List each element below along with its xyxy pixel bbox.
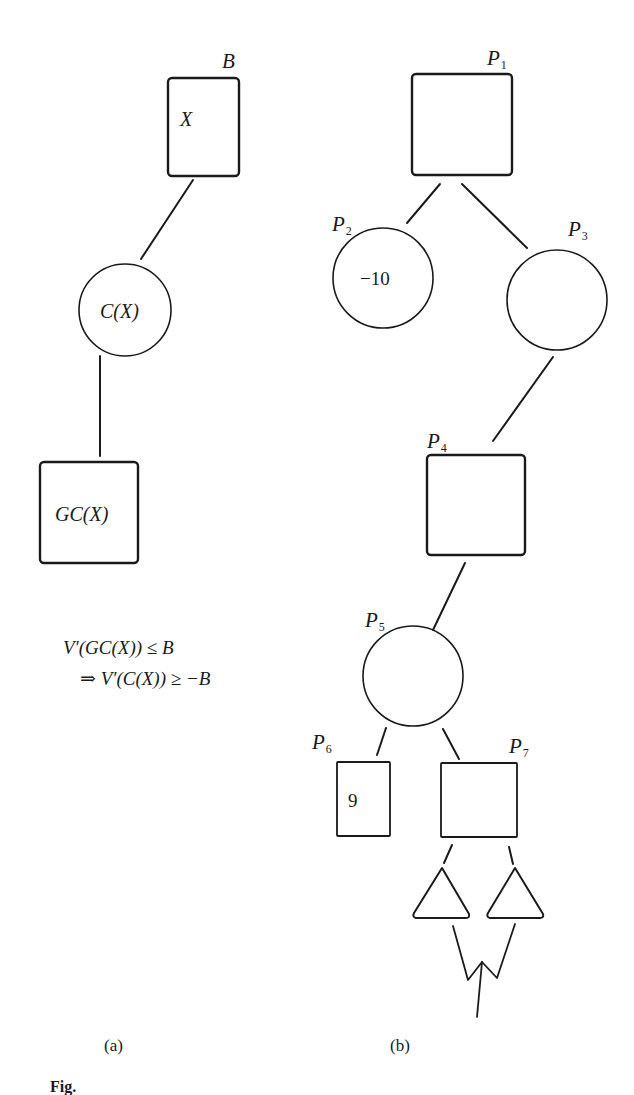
node-p5-circle [363, 626, 463, 726]
label-p6-sub: 6 [326, 742, 332, 756]
node-p2-value: −10 [360, 269, 390, 288]
label-p1-sub: 1 [501, 58, 507, 72]
edge-p1-to-p2 [407, 184, 440, 223]
node-p4-square [427, 455, 525, 555]
node-p7-square [441, 763, 517, 837]
label-p2-letter: P [332, 212, 345, 236]
node-p3-circle [507, 250, 607, 350]
bound-label-b: B [222, 51, 235, 72]
node-b-text: X [180, 109, 192, 129]
label-p3-letter: P [568, 217, 581, 241]
label-p2: P2 [332, 214, 352, 237]
node-gcx-text: GC(X) [55, 504, 108, 524]
label-p4-letter: P [427, 429, 440, 453]
node-p6-value: 9 [348, 791, 358, 810]
label-p7-sub: 7 [523, 746, 529, 760]
label-p2-sub: 2 [346, 224, 352, 238]
label-p3-sub: 3 [582, 229, 588, 243]
edge-p1-to-p3 [462, 184, 527, 248]
label-p1: P1 [487, 48, 507, 71]
label-p5: P5 [365, 610, 385, 633]
panel-a-graphics [40, 78, 239, 563]
node-p1-square [412, 74, 512, 175]
label-p5-letter: P [365, 608, 378, 632]
label-p7-letter: P [509, 734, 522, 758]
label-p5-sub: 5 [379, 620, 385, 634]
node-b-square [168, 78, 239, 176]
edge-p4-to-p5 [433, 563, 465, 630]
node-p6-square [337, 762, 390, 836]
edge-b-to-cx [141, 180, 193, 259]
label-p3: P3 [568, 219, 588, 242]
merge-stem [477, 962, 482, 1017]
edge-p7-to-left-subtree [444, 845, 452, 863]
panel-b-label: (b) [390, 1037, 410, 1054]
label-p4: P4 [427, 431, 447, 454]
edge-p3-to-p4 [493, 357, 553, 441]
edge-p7-to-right-subtree [509, 847, 513, 864]
label-p4-sub: 4 [441, 441, 447, 455]
label-p6: P6 [312, 732, 332, 755]
formula-line-1: V′(GC(X)) ≤ B [63, 638, 174, 657]
merge-zigzag [453, 924, 515, 980]
label-p1-letter: P [487, 46, 500, 70]
label-p6-letter: P [312, 730, 325, 754]
formula-line-2: ⇒ V′(C(X)) ≥ −B [80, 669, 210, 688]
left-subtree-triangle [413, 868, 469, 918]
edge-p5-to-p6 [377, 728, 386, 755]
edge-p5-to-p7 [443, 729, 459, 759]
panel-a-label: (a) [104, 1037, 123, 1054]
label-p7: P7 [509, 736, 529, 759]
node-cx-text: C(X) [100, 301, 139, 321]
figure-caption: Fig. [50, 1079, 76, 1095]
panel-b-graphics [333, 74, 607, 1017]
right-subtree-triangle [487, 868, 543, 918]
